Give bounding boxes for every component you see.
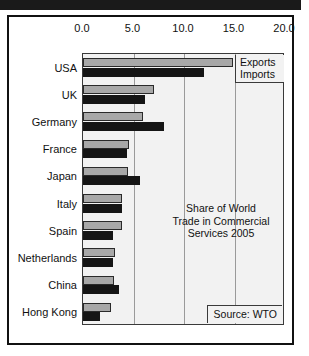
- source-note: Source: WTO: [207, 305, 282, 323]
- bar-row: UK: [83, 81, 283, 108]
- inner-title-line-1: Share of World: [161, 202, 281, 215]
- bar-exports: [83, 112, 143, 121]
- inner-title-line-2: Trade in Commercial: [161, 215, 281, 228]
- bar-exports: [83, 221, 122, 230]
- bar-imports: [83, 122, 164, 131]
- x-tick-label: 10.0: [172, 22, 193, 34]
- bar-exports: [83, 194, 122, 203]
- bar-imports: [83, 68, 204, 77]
- category-label: Hong Kong: [22, 306, 77, 318]
- bar-imports: [83, 312, 100, 321]
- figure-page: 0.05.010.015.020.0 USAUKGermanyFranceJap…: [0, 0, 309, 356]
- bar-imports: [83, 285, 119, 294]
- bar-imports: [83, 258, 113, 267]
- x-tick-label: 20.0: [273, 22, 294, 34]
- category-label: Germany: [32, 116, 77, 128]
- bar-exports: [83, 248, 115, 257]
- category-label: France: [43, 143, 77, 155]
- bar-row: France: [83, 136, 283, 163]
- legend-entry-exports: Exports: [240, 57, 284, 69]
- plot-area: USAUKGermanyFranceJapanItalySpainNetherl…: [82, 53, 284, 325]
- category-label: Netherlands: [18, 252, 77, 264]
- scan-top-band-edge: [301, 0, 309, 10]
- chart-inner-title: Share of World Trade in Commercial Servi…: [161, 202, 281, 240]
- bar-imports: [83, 176, 140, 185]
- category-label: Italy: [57, 198, 77, 210]
- bar-exports: [83, 85, 154, 94]
- bar-imports: [83, 204, 122, 213]
- legend-entry-imports: Imports: [240, 69, 284, 81]
- bar-row: China: [83, 272, 283, 299]
- bar-exports: [83, 303, 111, 312]
- category-label: USA: [54, 62, 77, 74]
- chart-figure-frame: 0.05.010.015.020.0 USAUKGermanyFranceJap…: [7, 15, 294, 345]
- x-axis-tick-row: 0.05.010.015.020.0: [9, 22, 292, 38]
- bar-exports: [83, 140, 129, 149]
- x-tick-label: 15.0: [223, 22, 244, 34]
- category-label: Spain: [49, 225, 77, 237]
- bar-imports: [83, 95, 145, 104]
- category-label: Japan: [47, 170, 77, 182]
- x-tick-label: 5.0: [125, 22, 140, 34]
- bar-imports: [83, 231, 113, 240]
- scan-top-band: [0, 0, 301, 10]
- bar-row: Netherlands: [83, 244, 283, 271]
- x-tick-label: 0.0: [74, 22, 89, 34]
- bar-row: Germany: [83, 108, 283, 135]
- bar-exports: [83, 276, 114, 285]
- bar-rows: USAUKGermanyFranceJapanItalySpainNetherl…: [83, 54, 283, 324]
- bar-imports: [83, 149, 127, 158]
- chart-legend: Exports Imports: [235, 55, 284, 83]
- inner-title-line-3: Services 2005: [161, 227, 281, 240]
- bar-row: Japan: [83, 163, 283, 190]
- category-label: UK: [62, 89, 77, 101]
- bar-exports: [83, 167, 128, 176]
- category-label: China: [48, 279, 77, 291]
- bar-exports: [83, 58, 233, 67]
